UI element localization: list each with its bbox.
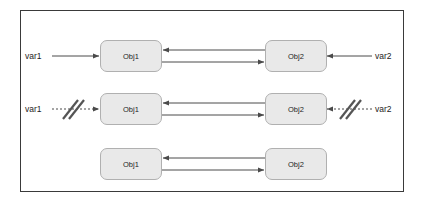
row-1-obj2-label: Obj2 <box>288 52 304 61</box>
row-2-obj2-box[interactable]: Obj2 <box>265 93 327 125</box>
row-1-var1-label: var1 <box>25 51 42 61</box>
row-2-obj2-label: Obj2 <box>288 105 304 114</box>
row-3-obj1-box[interactable]: Obj1 <box>100 148 162 180</box>
diagram-canvas: var1 Obj1 Obj2 var2 var1 Obj1 Obj2 var2 … <box>0 0 423 202</box>
row-2-obj1-label: Obj1 <box>123 105 139 114</box>
row-1-obj1-box[interactable]: Obj1 <box>100 40 162 72</box>
row-1-obj1-label: Obj1 <box>123 52 139 61</box>
row-3-obj1-label: Obj1 <box>123 160 139 169</box>
row-2-obj1-box[interactable]: Obj1 <box>100 93 162 125</box>
row-2-var1-label: var1 <box>25 104 42 114</box>
diagram-frame <box>20 10 404 192</box>
row-2-var2-label: var2 <box>375 104 392 114</box>
row-1-obj2-box[interactable]: Obj2 <box>265 40 327 72</box>
row-1-var2-label: var2 <box>375 51 392 61</box>
row-3-obj2-label: Obj2 <box>288 160 304 169</box>
row-3-obj2-box[interactable]: Obj2 <box>265 148 327 180</box>
